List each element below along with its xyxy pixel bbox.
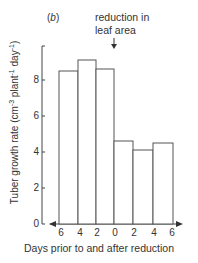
bar-4 [114, 141, 133, 224]
x-tick-6: 4 [148, 227, 160, 238]
x-axis-label: Days prior to and after reduction [0, 242, 198, 254]
annotation-arrow-icon [111, 38, 117, 49]
x-tick-3: 2 [91, 227, 103, 238]
x-tick-4: 0 [109, 227, 121, 238]
y-tick-2: 2 [29, 182, 39, 193]
bars [59, 60, 173, 224]
y-tick-6: 6 [29, 110, 39, 121]
x-tick-7: 6 [166, 227, 178, 238]
y-tick-0: 0 [29, 218, 39, 229]
bar-5 [133, 150, 153, 224]
x-tick-2: 4 [74, 227, 86, 238]
bar-3 [96, 69, 114, 224]
y-axis-label: Tuber growth rate (cm-3 plant-1 day-1) [8, 64, 20, 204]
bar-2 [78, 60, 96, 224]
y-tick-8: 8 [29, 74, 39, 85]
bar-6 [153, 143, 173, 224]
y-axis [42, 46, 45, 224]
bar-1 [59, 71, 78, 224]
y-tick-4: 4 [29, 146, 39, 157]
x-tick-1: 6 [55, 227, 67, 238]
x-tick-5: 2 [128, 227, 140, 238]
